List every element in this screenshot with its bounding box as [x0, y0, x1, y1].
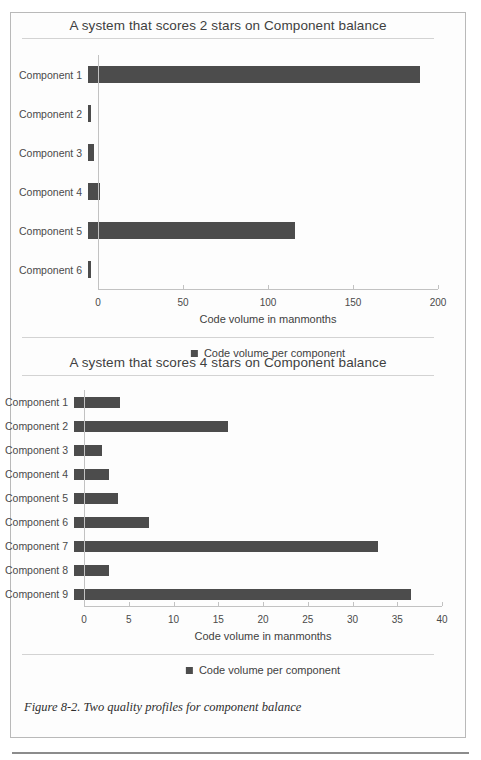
bar-row: Component 3 [0, 133, 438, 172]
bar-track [88, 133, 438, 172]
bar-row: Component 6 [0, 510, 442, 534]
x-axis-tick-label: 5 [126, 614, 132, 625]
x-axis-tick [397, 602, 398, 606]
x-axis-tick [308, 602, 309, 606]
x-axis-tick [263, 602, 264, 606]
x-axis-tick-label: 35 [392, 614, 403, 625]
category-label: Component 7 [0, 540, 74, 552]
bar[interactable] [74, 565, 109, 576]
bar-track [88, 55, 438, 94]
bar-track [88, 94, 438, 133]
category-label: Component 6 [0, 516, 74, 528]
chart-title: A system that scores 2 stars on Componen… [0, 18, 456, 33]
bar[interactable] [88, 261, 91, 278]
legend-divider [22, 654, 434, 655]
bar-track [88, 250, 438, 289]
x-axis-tick [183, 285, 184, 289]
bar-row: Component 2 [0, 414, 442, 438]
x-axis-tick [353, 602, 354, 606]
plot-area: Component 1Component 2Component 3Compone… [0, 39, 456, 369]
page-bottom-rule [12, 752, 469, 754]
bar-track [88, 172, 438, 211]
bar-row: Component 8 [0, 558, 442, 582]
bar-track [74, 390, 442, 414]
x-axis-tick [442, 602, 443, 606]
chart-block-2-stars: A system that scores 2 stars on Componen… [0, 18, 456, 369]
bar[interactable] [88, 144, 94, 161]
bar[interactable] [74, 469, 109, 480]
bar-track [74, 558, 442, 582]
category-label: Component 5 [0, 225, 88, 237]
x-axis-tick-label: 15 [213, 614, 224, 625]
bar-row: Component 6 [0, 250, 438, 289]
category-label: Component 4 [0, 468, 74, 480]
x-axis-tick [174, 602, 175, 606]
plot-area: Component 1Component 2Component 3Compone… [0, 376, 456, 686]
x-axis-tick-label: 30 [347, 614, 358, 625]
chart-title: A system that scores 4 stars on Componen… [0, 355, 456, 370]
bar-track [74, 486, 442, 510]
bar-row: Component 5 [0, 211, 438, 250]
x-axis-tick-label: 100 [260, 297, 277, 308]
chart-block-4-stars: A system that scores 4 stars on Componen… [0, 355, 456, 686]
bar[interactable] [88, 66, 420, 83]
x-axis-tick-label: 150 [345, 297, 362, 308]
bar-track [74, 534, 442, 558]
x-axis-line [98, 289, 438, 290]
category-label: Component 8 [0, 564, 74, 576]
bar[interactable] [88, 222, 295, 239]
x-axis-tick [98, 285, 99, 289]
x-axis-line [84, 606, 442, 607]
x-axis-tick-label: 10 [168, 614, 179, 625]
bar[interactable] [74, 541, 378, 552]
figure-caption: Figure 8-2. Two quality profiles for com… [24, 700, 301, 715]
bar[interactable] [74, 421, 228, 432]
y-axis-line [84, 390, 85, 606]
x-axis-tick-label: 40 [436, 614, 447, 625]
chart-legend: Code volume per component [186, 664, 340, 676]
bar-rows: Component 1Component 2Component 3Compone… [0, 390, 442, 606]
legend-label: Code volume per component [199, 664, 340, 676]
bar-row: Component 7 [0, 534, 442, 558]
category-label: Component 1 [0, 69, 88, 81]
y-axis-line [98, 55, 99, 289]
bar-track [88, 211, 438, 250]
x-axis-tick [438, 285, 439, 289]
bar-row: Component 5 [0, 486, 442, 510]
x-axis-tick-label: 25 [302, 614, 313, 625]
category-label: Component 6 [0, 264, 88, 276]
bar[interactable] [74, 493, 118, 504]
category-label: Component 1 [0, 396, 74, 408]
bar-track [74, 510, 442, 534]
category-label: Component 9 [0, 588, 74, 600]
bar-row: Component 4 [0, 462, 442, 486]
category-label: Component 3 [0, 444, 74, 456]
bar-row: Component 3 [0, 438, 442, 462]
bar[interactable] [88, 105, 91, 122]
legend-divider [22, 337, 434, 338]
category-label: Component 5 [0, 492, 74, 504]
category-label: Component 4 [0, 186, 88, 198]
bar-track [74, 414, 442, 438]
category-label: Component 2 [0, 420, 74, 432]
category-label: Component 2 [0, 108, 88, 120]
x-axis-tick-label: 50 [177, 297, 188, 308]
bar-track [74, 438, 442, 462]
x-axis-tick [84, 602, 85, 606]
bar[interactable] [74, 445, 102, 456]
bar[interactable] [74, 589, 411, 600]
bar-track [74, 462, 442, 486]
bar-rows: Component 1Component 2Component 3Compone… [0, 55, 438, 289]
bar-row: Component 1 [0, 390, 442, 414]
bar-row: Component 1 [0, 55, 438, 94]
x-axis-tick [129, 602, 130, 606]
bar[interactable] [74, 397, 120, 408]
x-axis-tick [218, 602, 219, 606]
bar-row: Component 2 [0, 94, 438, 133]
x-axis-title: Code volume in manmonths [195, 630, 332, 642]
bar-row: Component 4 [0, 172, 438, 211]
bar[interactable] [74, 517, 149, 528]
x-axis-tick [268, 285, 269, 289]
legend-swatch-icon [186, 667, 193, 674]
x-axis-tick-label: 20 [257, 614, 268, 625]
